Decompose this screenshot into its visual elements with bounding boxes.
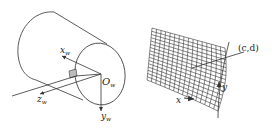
cylinder-back-face bbox=[18, 12, 54, 80]
grid-y-label: y bbox=[222, 83, 227, 92]
world-axes bbox=[12, 56, 101, 111]
cylinder bbox=[18, 12, 129, 108]
y-w-label: yw bbox=[101, 112, 111, 122]
grid-x-arrow bbox=[184, 98, 194, 99]
origin-label: Ow bbox=[102, 77, 115, 88]
grid-x-label: x bbox=[176, 96, 181, 105]
point-cd-label: (c,d) bbox=[238, 44, 259, 53]
z-w-label: zw bbox=[37, 95, 47, 105]
point-pointer bbox=[192, 55, 234, 68]
x-w-label: xw bbox=[60, 46, 70, 56]
diagram-canvas: xw Ow zw yw (c,d) y x bbox=[0, 0, 280, 129]
x-axis-arrow bbox=[62, 56, 101, 74]
